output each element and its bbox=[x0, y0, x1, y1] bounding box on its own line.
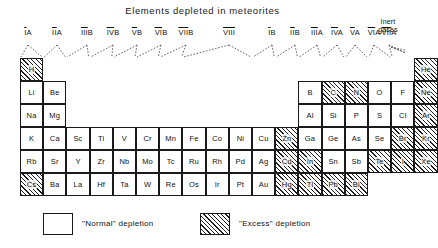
element-symbol: Pb bbox=[328, 180, 339, 189]
element-cell-be[interactable]: Be bbox=[43, 81, 66, 104]
element-cell-al[interactable]: Al bbox=[298, 104, 321, 127]
element-symbol: F bbox=[400, 88, 406, 97]
element-cell-w[interactable]: W bbox=[136, 173, 159, 196]
element-cell-tl[interactable]: Tl bbox=[298, 173, 321, 196]
element-cell-nb[interactable]: Nb bbox=[113, 150, 136, 173]
element-cell-tc[interactable]: Tc bbox=[159, 150, 182, 173]
element-symbol: Na bbox=[26, 111, 37, 120]
element-cell-b[interactable]: B bbox=[298, 81, 321, 104]
element-cell-sc[interactable]: Sc bbox=[66, 127, 89, 150]
element-cell-pt[interactable]: Pt bbox=[229, 173, 252, 196]
element-cell-kr[interactable]: Kr bbox=[414, 127, 437, 150]
element-cell-pb[interactable]: Pb bbox=[322, 173, 345, 196]
element-cell-hg[interactable]: Hg bbox=[275, 173, 298, 196]
element-cell-bi[interactable]: Bi bbox=[345, 173, 368, 196]
element-symbol: Ru bbox=[188, 157, 199, 166]
element-cell-ag[interactable]: Ag bbox=[252, 150, 275, 173]
element-cell-sb[interactable]: Sb bbox=[345, 150, 368, 173]
element-cell-mg[interactable]: Mg bbox=[43, 104, 66, 127]
element-cell-mo[interactable]: Mo bbox=[136, 150, 159, 173]
element-symbol: Cr bbox=[143, 134, 152, 143]
element-cell-n[interactable]: N bbox=[345, 81, 368, 104]
element-cell-y[interactable]: Y bbox=[66, 150, 89, 173]
element-cell-p[interactable]: P bbox=[345, 104, 368, 127]
element-cell-zn[interactable]: Zn bbox=[275, 127, 298, 150]
element-symbol: Al bbox=[306, 111, 314, 120]
element-symbol: Tc bbox=[166, 157, 175, 166]
element-cell-he[interactable]: He bbox=[414, 58, 437, 81]
element-cell-rh[interactable]: Rh bbox=[206, 150, 229, 173]
element-symbol: V bbox=[121, 134, 127, 143]
element-cell-ti[interactable]: Ti bbox=[90, 127, 113, 150]
element-cell-ne[interactable]: Ne bbox=[414, 81, 437, 104]
element-cell-in[interactable]: In bbox=[298, 150, 321, 173]
element-cell-cd[interactable]: Cd bbox=[275, 150, 298, 173]
element-cell-ca[interactable]: Ca bbox=[43, 127, 66, 150]
element-cell-h[interactable]: H bbox=[20, 58, 43, 81]
element-cell-ni[interactable]: Ni bbox=[229, 127, 252, 150]
element-symbol: P bbox=[353, 111, 359, 120]
element-cell-ru[interactable]: Ru bbox=[182, 150, 205, 173]
element-cell-o[interactable]: O bbox=[368, 81, 391, 104]
element-symbol: Pt bbox=[236, 180, 245, 189]
element-symbol: Mg bbox=[49, 111, 61, 120]
element-symbol: Br bbox=[398, 134, 407, 143]
element-symbol: Y bbox=[75, 157, 81, 166]
element-symbol: Si bbox=[329, 111, 337, 120]
element-cell-cl[interactable]: Cl bbox=[391, 104, 414, 127]
element-symbol: He bbox=[420, 65, 431, 74]
element-cell-sr[interactable]: Sr bbox=[43, 150, 66, 173]
legend-label-excess: "Excess" depletion bbox=[239, 219, 311, 228]
element-cell-si[interactable]: Si bbox=[322, 104, 345, 127]
element-symbol: Nb bbox=[119, 157, 130, 166]
element-symbol: Cu bbox=[258, 134, 269, 143]
element-cell-zr[interactable]: Zr bbox=[90, 150, 113, 173]
element-cell-fe[interactable]: Fe bbox=[182, 127, 205, 150]
element-symbol: Os bbox=[188, 180, 199, 189]
element-symbol: Te bbox=[375, 157, 384, 166]
element-cell-mn[interactable]: Mn bbox=[159, 127, 182, 150]
element-cell-hf[interactable]: Hf bbox=[90, 173, 113, 196]
element-cell-pd[interactable]: Pd bbox=[229, 150, 252, 173]
element-cell-co[interactable]: Co bbox=[206, 127, 229, 150]
element-cell-rb[interactable]: Rb bbox=[20, 150, 43, 173]
element-cell-ta[interactable]: Ta bbox=[113, 173, 136, 196]
element-symbol: Tl bbox=[306, 180, 314, 189]
element-cell-se[interactable]: Se bbox=[368, 127, 391, 150]
element-symbol: Ni bbox=[236, 134, 244, 143]
element-cell-as[interactable]: As bbox=[345, 127, 368, 150]
element-cell-ga[interactable]: Ga bbox=[298, 127, 321, 150]
element-cell-os[interactable]: Os bbox=[182, 173, 205, 196]
element-symbol: In bbox=[306, 157, 314, 166]
element-symbol: Xe bbox=[421, 157, 432, 166]
element-cell-c[interactable]: C bbox=[322, 81, 345, 104]
element-cell-ge[interactable]: Ge bbox=[322, 127, 345, 150]
element-cell-la[interactable]: La bbox=[66, 173, 89, 196]
element-cell-i[interactable]: I bbox=[391, 150, 414, 173]
element-cell-xe[interactable]: Xe bbox=[414, 150, 437, 173]
element-cell-s[interactable]: S bbox=[368, 104, 391, 127]
element-symbol: Ar bbox=[422, 111, 431, 120]
element-symbol: Ba bbox=[49, 180, 60, 189]
element-cell-li[interactable]: Li bbox=[20, 81, 43, 104]
element-cell-cs[interactable]: Cs bbox=[20, 173, 43, 196]
element-symbol: Co bbox=[212, 134, 223, 143]
element-cell-k[interactable]: K bbox=[20, 127, 43, 150]
element-symbol: Be bbox=[49, 88, 60, 97]
element-symbol: Cl bbox=[399, 111, 407, 120]
element-symbol: Hg bbox=[281, 180, 292, 189]
element-cell-ba[interactable]: Ba bbox=[43, 173, 66, 196]
element-cell-na[interactable]: Na bbox=[20, 104, 43, 127]
element-cell-br[interactable]: Br bbox=[391, 127, 414, 150]
element-cell-cu[interactable]: Cu bbox=[252, 127, 275, 150]
element-cell-au[interactable]: Au bbox=[252, 173, 275, 196]
element-cell-v[interactable]: V bbox=[113, 127, 136, 150]
element-cell-ar[interactable]: Ar bbox=[414, 104, 437, 127]
element-cell-cr[interactable]: Cr bbox=[136, 127, 159, 150]
element-cell-te[interactable]: Te bbox=[368, 150, 391, 173]
element-cell-re[interactable]: Re bbox=[159, 173, 182, 196]
element-cell-sn[interactable]: Sn bbox=[322, 150, 345, 173]
element-cell-f[interactable]: F bbox=[391, 81, 414, 104]
element-cell-ir[interactable]: Ir bbox=[206, 173, 229, 196]
